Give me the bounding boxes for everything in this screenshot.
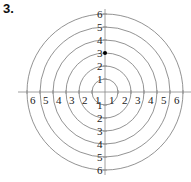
tick-label-right: 6 xyxy=(174,94,180,106)
polar-grid-diagram: 123456123456123456123456 xyxy=(0,0,191,182)
tick-label-left: 4 xyxy=(56,94,62,106)
tick-label-up: 5 xyxy=(97,21,103,33)
tick-label-up: 1 xyxy=(97,73,103,85)
tick-label-left: 6 xyxy=(30,94,36,106)
tick-label-right: 1 xyxy=(109,94,115,106)
tick-label-right: 4 xyxy=(148,94,154,106)
tick-label-up: 6 xyxy=(97,8,103,20)
plotted-point xyxy=(103,51,107,55)
tick-label-right: 5 xyxy=(161,94,167,106)
tick-label-up: 4 xyxy=(97,34,103,46)
tick-label-right: 2 xyxy=(122,94,128,106)
tick-label-down: 5 xyxy=(97,151,103,163)
axes xyxy=(18,9,191,175)
tick-label-left: 1 xyxy=(95,94,101,106)
tick-label-left: 5 xyxy=(43,94,49,106)
tick-label-left: 3 xyxy=(69,94,75,106)
tick-label-down: 2 xyxy=(97,112,103,124)
tick-label-down: 6 xyxy=(97,164,103,176)
tick-label-up: 2 xyxy=(97,60,103,72)
tick-label-left: 2 xyxy=(82,94,88,106)
tick-label-up: 3 xyxy=(97,47,103,59)
tick-label-down: 4 xyxy=(97,138,103,150)
tick-label-down: 3 xyxy=(97,125,103,137)
plotted-points xyxy=(103,51,107,55)
tick-label-right: 3 xyxy=(135,94,141,106)
